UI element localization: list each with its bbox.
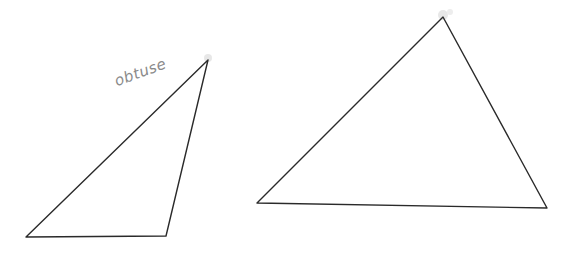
triangles-diagram (0, 0, 578, 256)
smudge-marks (204, 9, 453, 62)
acute-triangle (257, 17, 547, 208)
